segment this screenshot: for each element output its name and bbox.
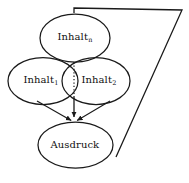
- diagram-svg: [0, 0, 189, 183]
- diagram-canvas: Inhaltn Inhalt1 Inhalt2 Ausdruck: [0, 0, 189, 183]
- scope-bracket: [74, 8, 182, 157]
- node-ellipse-inhalt-n[interactable]: [40, 14, 110, 62]
- node-ellipse-inhalt-1[interactable]: [8, 58, 78, 105]
- node-ellipse-ausdruck[interactable]: [38, 122, 113, 168]
- node-ellipse-inhalt-2[interactable]: [62, 58, 130, 105]
